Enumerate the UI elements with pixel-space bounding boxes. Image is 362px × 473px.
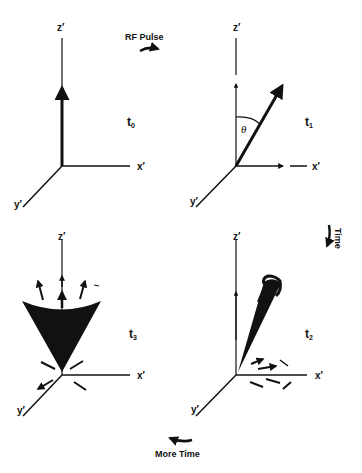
x-axis-label: x′ bbox=[312, 161, 321, 172]
time-label-t2: t2 bbox=[305, 327, 313, 341]
spin-vector bbox=[266, 379, 280, 383]
x-axis-label: x′ bbox=[315, 370, 324, 381]
spin-vector bbox=[80, 281, 85, 299]
spin-vector bbox=[280, 360, 288, 366]
time-label-t1: t1 bbox=[305, 115, 313, 129]
z-axis-label: z′ bbox=[233, 231, 241, 242]
spin-vector bbox=[70, 361, 83, 369]
rf-pulse-transition: RF Pulse bbox=[125, 32, 164, 51]
y-axis-label: y′ bbox=[190, 196, 199, 207]
x-axis-label: x′ bbox=[137, 161, 146, 172]
time-label-t0: t0 bbox=[127, 115, 135, 129]
spin-vector bbox=[250, 382, 263, 387]
down-arrow-icon bbox=[327, 225, 330, 246]
panel-t0: z′ x′ y′ t0 bbox=[14, 22, 146, 210]
more-time-label: More Time bbox=[155, 449, 200, 459]
theta-symbol: θ bbox=[241, 123, 247, 135]
dephasing-cone bbox=[22, 301, 101, 372]
y-axis-label: y′ bbox=[17, 405, 26, 416]
panel-t2: z′ x′ y′ t2 bbox=[191, 231, 324, 416]
y-axis bbox=[196, 375, 236, 416]
x-axis-label: x′ bbox=[137, 370, 146, 381]
spin-vector bbox=[74, 382, 86, 390]
z-axis-label: z′ bbox=[233, 22, 241, 33]
y-axis bbox=[23, 375, 62, 416]
tick-mark bbox=[94, 285, 99, 286]
spin-vector bbox=[258, 366, 276, 369]
spin-vector bbox=[251, 359, 263, 364]
panel-t1: θ z′ x′ y′ t1 bbox=[190, 22, 321, 207]
y-axis-label: y′ bbox=[191, 404, 200, 415]
spin-vector bbox=[283, 382, 291, 389]
y-axis bbox=[196, 166, 236, 207]
dephasing-fan bbox=[238, 279, 281, 372]
time-label-t3: t3 bbox=[129, 327, 137, 341]
panel-t3: z′ x′ y′ t3 bbox=[17, 231, 146, 416]
y-axis bbox=[23, 166, 62, 207]
z-axis-label: z′ bbox=[57, 22, 65, 33]
time-transition: Time bbox=[327, 225, 343, 249]
right-arrow-icon bbox=[140, 48, 158, 51]
time-label: Time bbox=[333, 228, 343, 249]
mri-magnetization-diagram: z′ x′ y′ t0 RF Pulse θ z′ x′ y′ t1 Time … bbox=[0, 0, 362, 473]
spin-vector bbox=[38, 281, 43, 300]
z-axis-label: z′ bbox=[58, 231, 66, 242]
more-time-transition: More Time bbox=[155, 438, 200, 459]
spin-vector bbox=[41, 362, 55, 369]
angle-arc bbox=[236, 117, 260, 124]
rf-pulse-label: RF Pulse bbox=[125, 32, 164, 42]
left-arrow-icon bbox=[170, 438, 192, 441]
y-axis-label: y′ bbox=[14, 199, 23, 210]
